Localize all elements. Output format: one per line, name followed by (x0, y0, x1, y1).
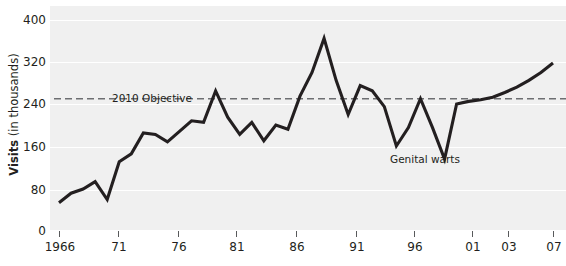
x-tick-mark-91 (356, 231, 357, 237)
x-tick-label-91: 91 (327, 241, 387, 254)
x-tick-mark-76 (178, 231, 179, 237)
x-tick-mark-96 (414, 231, 415, 237)
x-tick-label-76: 76 (149, 241, 209, 254)
x-tick-mark-01 (472, 231, 473, 237)
series-line-genital-warts (59, 38, 553, 202)
x-tick-mark-86 (296, 231, 297, 237)
x-tick-label-96: 96 (385, 241, 445, 254)
y-tick-160: 160 (2, 141, 46, 153)
x-tick-mark-1966 (59, 231, 60, 237)
x-tick-label-1966: 1966 (30, 241, 90, 254)
y-tick-320: 320 (2, 56, 46, 68)
plot-area: 2010 Objective Genital warts (50, 6, 566, 230)
x-tick-mark-81 (236, 231, 237, 237)
x-axis-tick-labels: 1966 71 76 81 86 91 96 01 03 07 (0, 230, 566, 266)
x-tick-label-07: 07 (524, 241, 566, 254)
series-annotation-label: Genital warts (390, 153, 460, 165)
x-tick-mark-71 (118, 231, 119, 237)
x-tick-mark-07 (553, 231, 554, 237)
x-tick-label-86: 86 (267, 241, 327, 254)
chart-canvas (50, 6, 566, 230)
chart-figure: Visits (in thousands) 400 320 240 160 80… (0, 0, 566, 266)
x-tick-mark-03 (508, 231, 509, 237)
objective-annotation-label: 2010 Objective (112, 92, 192, 104)
y-tick-240: 240 (2, 98, 46, 110)
y-axis-tick-labels: 400 320 240 160 80 0 (0, 0, 46, 240)
x-tick-label-71: 71 (89, 241, 149, 254)
y-tick-400: 400 (2, 14, 46, 26)
y-tick-80: 80 (2, 184, 46, 196)
x-tick-label-81: 81 (207, 241, 267, 254)
